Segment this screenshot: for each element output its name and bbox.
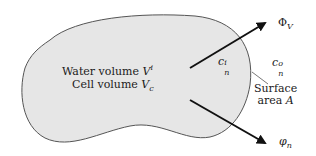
outside-concentration: con — [272, 57, 284, 69]
surface-area-label: Surface area A — [254, 83, 297, 107]
cell-diagram — [0, 0, 316, 156]
water-volume-label: Water volume Vi — [62, 66, 153, 78]
volume-flux-symbol: Φ — [278, 16, 287, 29]
outside-conc-sub: n — [278, 68, 283, 80]
surface-line2: area — [257, 94, 282, 107]
volume-flux-label: ΦV — [278, 17, 293, 29]
solute-flux-label: φn — [279, 136, 292, 148]
surface-symbol: A — [286, 94, 294, 107]
volume-flux-sub: V — [287, 22, 293, 31]
solute-flux-sub: n — [287, 141, 292, 150]
water-volume-text: Water volume — [62, 65, 139, 78]
inside-concentration: cin — [218, 56, 230, 68]
water-volume-sup: i — [150, 63, 153, 72]
cell-volume-label: Cell volume Vc — [72, 79, 154, 91]
cell-volume-text: Cell volume — [72, 78, 138, 91]
solute-flux-symbol: φ — [279, 135, 287, 148]
cell-volume-sub: c — [149, 84, 153, 93]
inside-conc-sub: n — [224, 67, 229, 79]
